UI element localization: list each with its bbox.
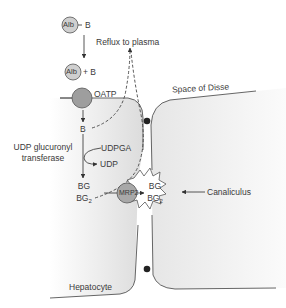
- tight-junction-top: [144, 118, 151, 125]
- oatp-label: OATP: [94, 90, 117, 99]
- udp-label: UDP: [100, 160, 118, 169]
- enzyme-line-1: UDP glucuronyl: [8, 143, 78, 152]
- mrp2-label: MRP2: [119, 189, 138, 196]
- bound-bilirubin-label: B: [85, 21, 91, 30]
- hepatocyte-label: Hepatocyte: [69, 283, 112, 292]
- bg2-left: BG2: [72, 194, 96, 204]
- alb-label-2: Alb: [66, 68, 77, 76]
- free-bilirubin-label: + B: [83, 68, 96, 77]
- canaliculus-label: Canaliculus: [207, 188, 251, 197]
- bg-left-line-1: BG: [72, 182, 96, 191]
- oatp-transporter: [72, 88, 92, 108]
- bg2-right: BG2: [144, 194, 166, 204]
- tight-junction-bottom: [144, 266, 151, 273]
- alb-label-1: Alb: [63, 21, 74, 29]
- bg-left-label: BG BG2: [72, 182, 96, 204]
- bg-right-label: BG BG2: [144, 182, 166, 204]
- udpga-label: UDPGA: [101, 144, 131, 153]
- reflux-label: Reflux to plasma: [96, 38, 159, 47]
- enzyme-line-2: transferase: [8, 154, 78, 163]
- bg-right-line-1: BG: [144, 182, 166, 191]
- enzyme-label: UDP glucuronyl transferase: [8, 143, 78, 162]
- bilirubin-label: B: [80, 125, 86, 134]
